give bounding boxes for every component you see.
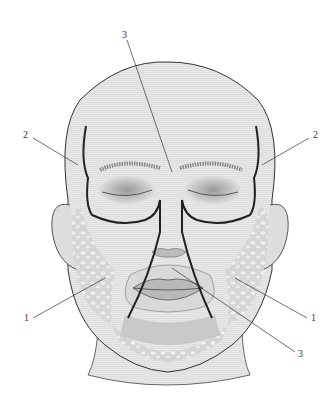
label-3-bottom: 3 (298, 349, 303, 359)
right-eye (185, 176, 241, 204)
face-illustration (0, 0, 335, 420)
label-3-top: 3 (122, 30, 127, 40)
label-2-left: 2 (23, 130, 28, 140)
left-eye (99, 176, 155, 204)
label-1-left: 1 (24, 313, 29, 323)
label-1-right: 1 (311, 313, 316, 323)
label-2-right: 2 (313, 130, 318, 140)
